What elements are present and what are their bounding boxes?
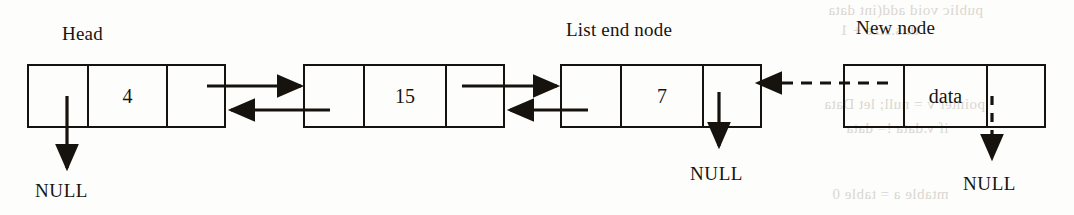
second-node[interactable]: 15 (303, 64, 505, 128)
head-node-data-cell: 4 (87, 66, 166, 126)
new-node[interactable]: data (843, 64, 1046, 128)
head-node-next-cell (166, 66, 224, 126)
new-node-next-cell (986, 66, 1044, 126)
caption-list-end-node: List end node (566, 19, 672, 41)
list-end-node-next-cell (702, 66, 760, 126)
head-node[interactable]: 4 (27, 64, 226, 128)
null-label-end: NULL (690, 163, 743, 185)
second-node-next-cell (445, 66, 503, 126)
list-end-node[interactable]: 7 (560, 64, 762, 128)
caption-new-node: New node (856, 17, 935, 39)
new-node-data-cell: data (903, 66, 986, 126)
linked-list-diagram: public void add(int data this.size + 1 p… (0, 0, 1074, 215)
second-node-data-cell: 15 (363, 66, 445, 126)
null-label-new-node: NULL (963, 173, 1016, 195)
head-node-prev-cell (29, 66, 87, 126)
bleed-text-line5: mtable a = table 0 (832, 186, 949, 203)
null-label-head: NULL (35, 180, 88, 202)
new-node-prev-cell (845, 66, 903, 126)
caption-head: Head (62, 23, 103, 45)
list-end-node-prev-cell (562, 66, 620, 126)
list-end-node-data-cell: 7 (620, 66, 702, 126)
second-node-prev-cell (305, 66, 363, 126)
